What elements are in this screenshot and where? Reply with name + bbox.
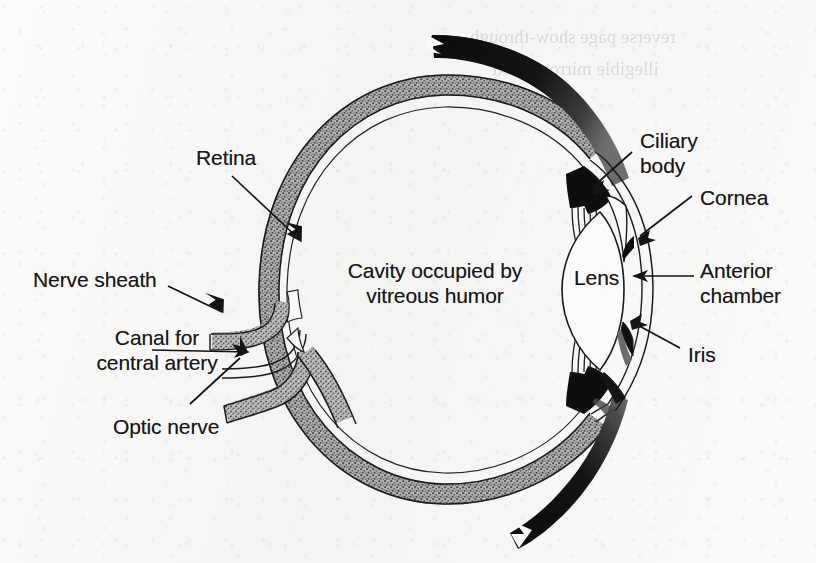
label-ciliary-body: Ciliary body	[640, 128, 698, 178]
arrowhead-nerve-sheath	[202, 293, 227, 314]
label-cavity-line-2: vitreous humor	[327, 283, 543, 308]
lens-outline	[562, 212, 624, 370]
label-optic-nerve: Optic nerve	[113, 415, 219, 438]
label-ciliary-line-1: Ciliary	[640, 128, 698, 153]
label-cornea: Cornea	[700, 186, 768, 209]
label-canal-line-1: Canal for	[72, 325, 242, 350]
figure-canvas: reverse page show-through illegible mirr…	[0, 0, 816, 563]
leader-cornea	[640, 196, 692, 236]
leader-nerve-sheath	[168, 286, 222, 312]
label-canal-for-central-artery: Canal for central artery	[72, 325, 242, 375]
arrowhead-iris	[630, 314, 648, 330]
label-anterior-line-1: Anterior	[700, 258, 781, 283]
label-iris: Iris	[688, 343, 716, 366]
label-vitreous-cavity: Cavity occupied by vitreous humor	[327, 258, 543, 308]
label-anterior-chamber: Anterior chamber	[700, 258, 781, 308]
label-anterior-line-2: chamber	[700, 283, 781, 308]
label-nerve-sheath: Nerve sheath	[33, 268, 157, 291]
arrowhead-cornea	[638, 230, 656, 246]
label-lens: Lens	[574, 266, 619, 289]
label-cavity-line-1: Cavity occupied by	[327, 258, 543, 283]
label-retina: Retina	[196, 146, 256, 169]
label-canal-line-2: central artery	[72, 350, 242, 375]
label-ciliary-line-2: body	[640, 153, 698, 178]
